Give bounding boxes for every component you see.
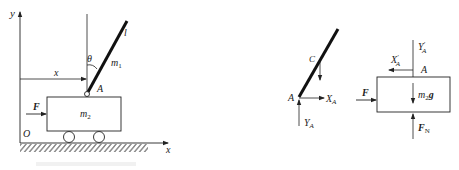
force-ya-label: YA: [304, 117, 315, 130]
left-figure: y x O x θ l m1 A m2 F: [9, 7, 171, 166]
rod-pivot-label: A: [287, 92, 295, 103]
diagram-canvas: y x O x θ l m1 A m2 F C A: [0, 0, 459, 170]
cart-box: [377, 77, 450, 112]
rod-mass-label: m1: [111, 57, 122, 70]
applied-force-label: F: [32, 101, 40, 112]
x-axis-label: x: [165, 144, 171, 155]
y-axis-label: y: [9, 7, 15, 19]
cart-free-body-diagram: Y′A X′A A F m2g FN: [356, 40, 450, 139]
rod-free-body-diagram: C A XA YA: [287, 29, 338, 130]
pendulum-rod: [88, 21, 127, 92]
rod-length-label: l: [124, 27, 127, 38]
force-xa-label: XA: [325, 93, 337, 106]
normal-force-label: FN: [417, 122, 430, 135]
center-of-mass-label: C: [309, 54, 316, 64]
x-position-label: x: [53, 67, 59, 78]
applied-force-label-right: F: [361, 87, 369, 98]
ground-hatch: [20, 144, 148, 152]
origin-label: O: [23, 128, 30, 139]
force-ya-prime-label: Y′A: [418, 40, 427, 55]
pivot-label: A: [96, 83, 104, 94]
rod-body: [299, 29, 338, 97]
figure-caption: [36, 162, 136, 166]
cart-wheel-right: [94, 132, 105, 143]
cart-wheel-left: [64, 132, 75, 143]
pivot-joint: [85, 92, 90, 97]
cart-pivot-label: A: [420, 64, 428, 75]
theta-label: θ: [87, 53, 92, 64]
force-xa-prime-label: X′A: [390, 53, 401, 68]
theta-arc: [87, 65, 97, 69]
